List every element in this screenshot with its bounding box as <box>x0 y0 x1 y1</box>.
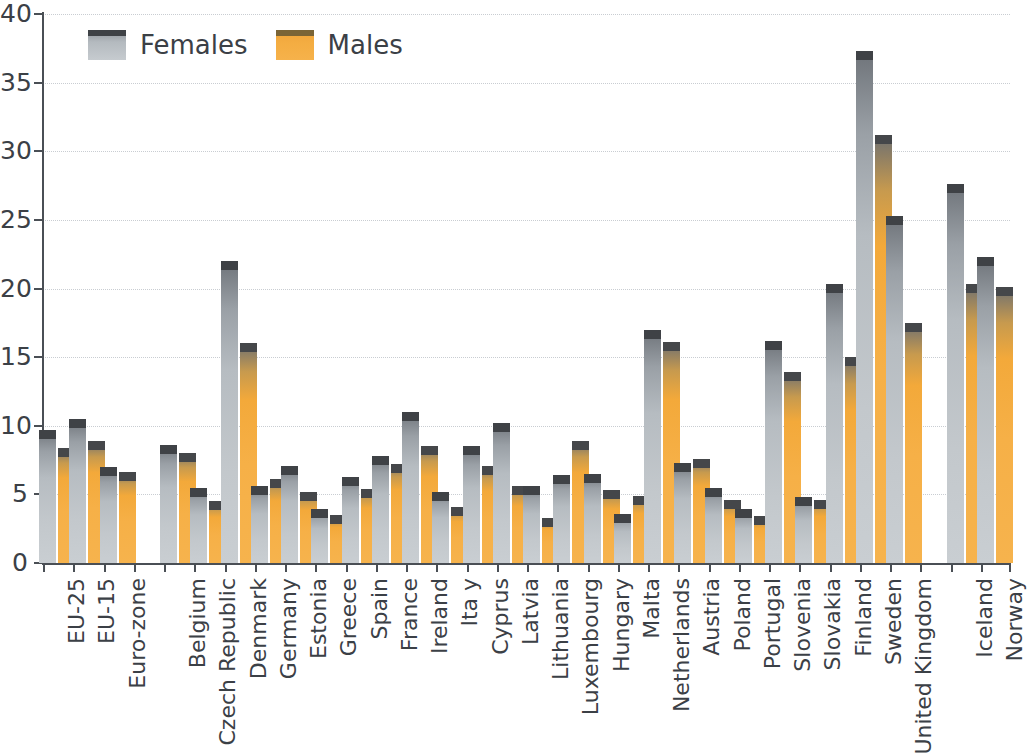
x-tick-mark <box>557 563 559 572</box>
bar-females <box>795 497 812 563</box>
bar-females <box>251 486 268 563</box>
bar-females <box>977 257 994 563</box>
x-tick-mark <box>376 563 378 572</box>
x-tick-mark <box>73 563 75 572</box>
plot-area <box>42 14 1010 563</box>
legend-item-males: Males <box>276 30 403 60</box>
x-tick-mark <box>285 563 287 572</box>
x-tick-mark <box>890 563 892 572</box>
legend-label-males: Males <box>328 32 403 58</box>
bar-females <box>523 486 540 563</box>
x-tick-label: Belgium <box>187 578 209 668</box>
bar-males <box>905 323 922 563</box>
bar-females <box>614 514 631 563</box>
x-tick-label: EU-15 <box>96 578 118 644</box>
bar-females <box>221 261 238 563</box>
x-tick-label: Ita y <box>459 578 481 627</box>
bar-females <box>765 341 782 563</box>
bar-females <box>674 463 691 563</box>
bar-females <box>493 423 510 563</box>
x-tick-label: Cyprus <box>490 578 512 655</box>
x-tick-label: France <box>399 578 421 651</box>
x-tick-mark <box>406 563 408 572</box>
bar-females <box>342 477 359 563</box>
x-tick-label: Estonia <box>308 578 330 659</box>
bar-females <box>311 509 328 563</box>
x-tick-mark <box>799 563 801 572</box>
x-tick-label: Netherlands <box>671 578 693 712</box>
x-tick-mark <box>43 563 45 572</box>
x-tick-label: Portugal <box>762 578 784 669</box>
x-tick-label: Latvia <box>520 578 542 645</box>
x-tick-label: Hungary <box>611 578 633 672</box>
x-tick-label: Slovenia <box>792 578 814 672</box>
bar-females <box>69 419 86 563</box>
x-tick-mark <box>134 563 136 572</box>
bar-females <box>826 284 843 563</box>
x-tick-mark <box>588 563 590 572</box>
x-tick-label: United Kingdom <box>913 578 935 755</box>
x-tick-mark <box>467 563 469 572</box>
x-tick-label: Slovakia <box>822 578 844 670</box>
bar-females <box>100 467 117 563</box>
x-tick-label: Denmark <box>248 578 270 679</box>
legend: Females Males <box>88 30 403 60</box>
x-tick-label: Poland <box>732 578 754 651</box>
x-tick-mark <box>315 563 317 572</box>
x-tick-label: Czech Republic <box>217 578 239 746</box>
bar-females <box>705 488 722 563</box>
x-tick-label: Greece <box>338 578 360 656</box>
x-tick-label: Germany <box>278 578 300 679</box>
bar-females <box>372 456 389 563</box>
x-tick-mark <box>497 563 499 572</box>
x-tick-mark <box>164 563 166 572</box>
x-tick-mark <box>346 563 348 572</box>
x-tick-mark <box>739 563 741 572</box>
x-tick-label: Euro-zone <box>127 578 149 689</box>
bar-females <box>644 330 661 563</box>
x-tick-label: Finland <box>853 578 875 657</box>
bar-females <box>735 509 752 563</box>
x-tick-mark <box>194 563 196 572</box>
legend-swatch-males-icon <box>276 30 314 60</box>
legend-label-females: Females <box>140 32 248 58</box>
x-tick-mark <box>1009 563 1011 572</box>
x-axis-line <box>42 563 1010 565</box>
bar-females <box>432 492 449 563</box>
bar-females <box>584 474 601 563</box>
x-tick-label: Iceland <box>974 578 996 658</box>
x-tick-mark <box>769 563 771 572</box>
legend-item-females: Females <box>88 30 248 60</box>
bar-males <box>996 287 1013 563</box>
bar-females <box>402 412 419 563</box>
bar-group <box>100 14 136 563</box>
x-tick-label: Spain <box>369 578 391 639</box>
x-tick-mark <box>255 563 257 572</box>
bar-group <box>977 14 1013 563</box>
x-tick-mark <box>920 563 922 572</box>
bar-females <box>553 475 570 563</box>
x-tick-mark <box>436 563 438 572</box>
x-tick-mark <box>981 563 983 572</box>
x-tick-label: Ireland <box>429 578 451 654</box>
bar-group <box>886 14 922 563</box>
bar-females <box>463 446 480 563</box>
bar-males <box>119 472 136 563</box>
x-tick-mark <box>709 563 711 572</box>
x-tick-label: Malta <box>641 578 663 639</box>
x-tick-mark <box>527 563 529 572</box>
x-tick-mark <box>830 563 832 572</box>
bar-females <box>281 466 298 563</box>
x-tick-label: Lithuania <box>550 578 572 680</box>
x-tick-mark <box>678 563 680 572</box>
legend-swatch-females-icon <box>88 30 126 60</box>
x-tick-label: Sweden <box>883 578 905 665</box>
x-tick-mark <box>104 563 106 572</box>
x-tick-mark <box>225 563 227 572</box>
bar-females <box>160 445 177 563</box>
x-tick-mark <box>951 563 953 572</box>
bar-females <box>190 488 207 563</box>
x-tick-mark <box>618 563 620 572</box>
x-tick-label: Austria <box>701 578 723 656</box>
